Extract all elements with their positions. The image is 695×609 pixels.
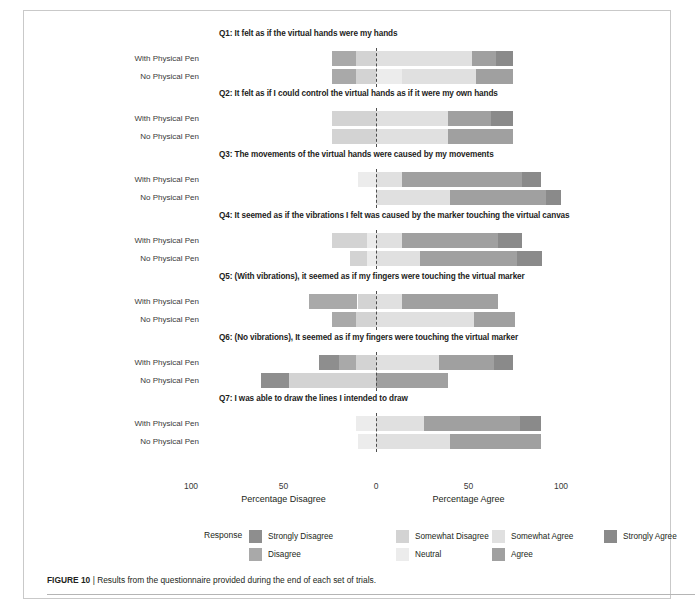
bar-segment — [289, 373, 376, 388]
axis-tick-label: 100 — [184, 481, 198, 491]
question-title: Q7: I was able to draw the lines I inten… — [219, 394, 408, 403]
bar-segment — [376, 111, 448, 126]
legend-swatch-icon — [492, 530, 505, 543]
bar-segment — [356, 312, 376, 327]
bar-segment — [402, 233, 498, 248]
likert-bar-row — [24, 172, 672, 187]
bar-segment — [358, 294, 377, 309]
bar-segment — [332, 129, 376, 144]
zero-reference-line — [376, 230, 377, 269]
bar-segment — [332, 51, 356, 66]
question-title: Q6: (No vibrations), It seemed as if my … — [219, 333, 518, 342]
bar-segment — [376, 69, 402, 84]
bar-segment — [309, 294, 357, 309]
legend-swatch-icon — [492, 548, 505, 561]
legend-label: Disagree — [268, 550, 301, 559]
bar-segment — [339, 355, 356, 370]
likert-bar-row — [24, 251, 672, 266]
bar-segment — [402, 294, 498, 309]
bar-segment — [476, 69, 513, 84]
likert-bar-row — [24, 416, 672, 431]
legend-swatch-icon — [396, 530, 409, 543]
bar-segment — [367, 251, 376, 266]
bar-segment — [424, 416, 520, 431]
bar-segment — [450, 434, 541, 449]
bar-segment — [376, 251, 420, 266]
bar-segment — [491, 111, 513, 126]
likert-bar-row — [24, 51, 672, 66]
zero-reference-line — [376, 108, 377, 147]
axis-tick-label: 100 — [554, 481, 568, 491]
legend-title: Response — [204, 530, 242, 540]
question-title: Q3: The movements of the virtual hands w… — [219, 150, 494, 159]
bar-segment — [332, 233, 367, 248]
likert-chart: Q1: It felt as if the virtual hands were… — [24, 11, 672, 511]
bar-segment — [474, 312, 515, 327]
axis-title-agree: Percentage Agree — [432, 494, 504, 504]
question-title: Q1: It felt as if the virtual hands were… — [219, 29, 397, 38]
legend-label: Agree — [511, 550, 533, 559]
legend-label: Strongly Disagree — [268, 532, 333, 541]
figure-caption-text: Results from the questionnaire provided … — [97, 575, 376, 585]
bar-segment — [494, 355, 513, 370]
legend: Response Strongly DisagreeDisagreeSomewh… — [24, 516, 672, 564]
likert-bar-row — [24, 312, 672, 327]
zero-reference-line — [376, 169, 377, 208]
caption-divider — [47, 594, 695, 595]
bar-segment — [376, 190, 450, 205]
legend-label: Somewhat Disagree — [415, 532, 489, 541]
bar-segment — [350, 251, 367, 266]
axis-tick-label: 0 — [374, 481, 379, 491]
bar-segment — [402, 172, 522, 187]
bar-segment — [358, 172, 377, 187]
bar-segment — [376, 312, 474, 327]
bar-segment — [356, 416, 376, 431]
likert-bar-row — [24, 69, 672, 84]
likert-bar-row — [24, 373, 672, 388]
bar-segment — [376, 373, 448, 388]
figure-caption-label: FIGURE 10 — [47, 575, 90, 585]
figure-caption: FIGURE 10 | Results from the questionnai… — [47, 575, 695, 585]
legend-swatch-icon — [396, 548, 409, 561]
legend-label: Neutral — [415, 550, 441, 559]
figure-frame: Q1: It felt as if the virtual hands were… — [23, 10, 671, 599]
legend-swatch-icon — [604, 530, 617, 543]
bar-segment — [376, 51, 472, 66]
bar-segment — [319, 355, 339, 370]
zero-reference-line — [376, 291, 377, 330]
question-title: Q4: It seemed as if the vibrations I fel… — [219, 211, 570, 220]
likert-bar-row — [24, 129, 672, 144]
bar-segment — [448, 129, 513, 144]
bar-segment — [367, 233, 376, 248]
bar-segment — [520, 416, 540, 431]
bar-segment — [356, 69, 376, 84]
bar-segment — [496, 51, 513, 66]
figure-caption-separator: | — [93, 575, 95, 585]
bar-segment — [439, 355, 495, 370]
legend-swatch-icon — [249, 548, 262, 561]
bar-segment — [376, 294, 402, 309]
zero-reference-line — [376, 352, 377, 391]
bar-segment — [376, 355, 439, 370]
bar-segment — [376, 233, 402, 248]
bar-segment — [376, 416, 424, 431]
bar-segment — [448, 111, 491, 126]
x-axis: 10050050100Percentage DisagreePercentage… — [24, 481, 672, 521]
likert-bar-row — [24, 294, 672, 309]
bar-segment — [498, 233, 522, 248]
bar-segment — [332, 111, 376, 126]
bar-segment — [517, 251, 543, 266]
bar-segment — [376, 434, 450, 449]
likert-bar-row — [24, 434, 672, 449]
likert-bar-row — [24, 111, 672, 126]
bar-segment — [356, 51, 376, 66]
bar-segment — [420, 251, 516, 266]
bar-segment — [358, 434, 377, 449]
bar-segment — [376, 172, 402, 187]
legend-label: Somewhat Agree — [511, 532, 573, 541]
bar-segment — [332, 312, 356, 327]
axis-tick-label: 50 — [464, 481, 473, 491]
zero-reference-line — [376, 413, 377, 452]
likert-bar-row — [24, 190, 672, 205]
bar-segment — [376, 129, 448, 144]
